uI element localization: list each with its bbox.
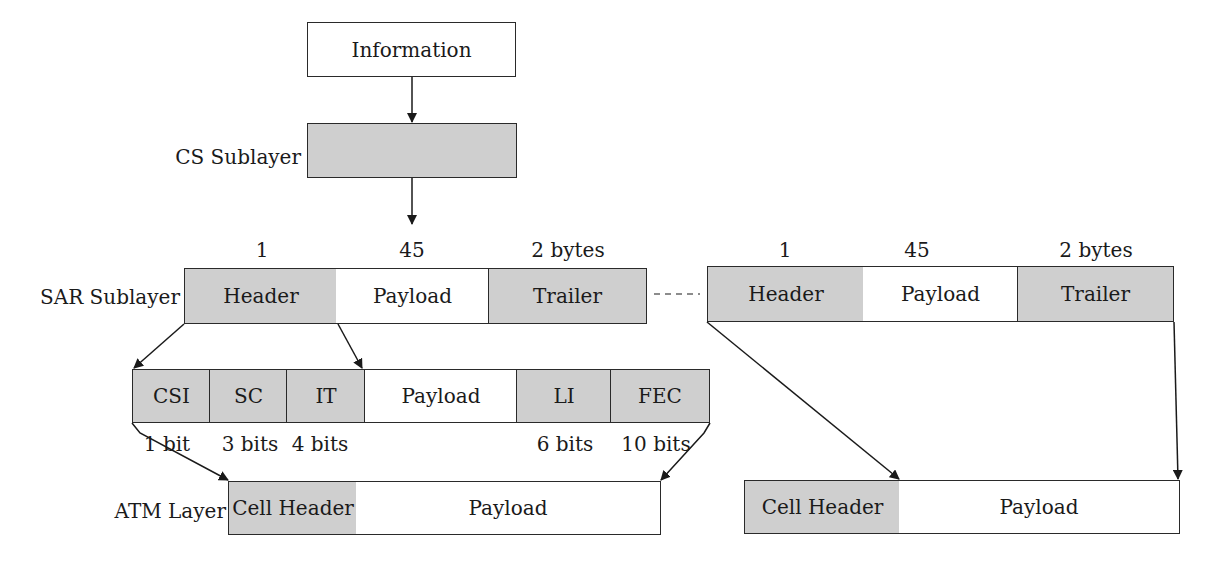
field-csi: CSI xyxy=(132,369,211,423)
cs-sublayer-box xyxy=(307,123,517,178)
sar-left-size-payload: 45 xyxy=(399,238,424,262)
atm-right-cell-header: Cell Header xyxy=(744,480,901,534)
field-li-label: LI xyxy=(553,384,574,408)
sar-right-header: Header xyxy=(707,266,865,322)
atm-left-payload-label: Payload xyxy=(469,496,548,520)
atm-right-cell-header-label: Cell Header xyxy=(762,495,884,519)
sar-right-payload-label: Payload xyxy=(901,282,980,306)
bits-it: 4 bits xyxy=(292,432,349,456)
sar-right-trailer-label: Trailer xyxy=(1061,282,1130,306)
sar-right-size-header: 1 xyxy=(779,238,792,262)
atm-right-payload-label: Payload xyxy=(1000,495,1079,519)
atm-left-payload: Payload xyxy=(356,481,661,535)
atm-left-cell-header: Cell Header xyxy=(228,481,358,535)
sar-left-trailer: Trailer xyxy=(488,268,647,324)
sar-left-size-header: 1 xyxy=(256,238,269,262)
sar-right-header-label: Header xyxy=(748,282,823,306)
field-li: LI xyxy=(516,369,612,423)
sar-right-trailer: Trailer xyxy=(1017,266,1174,322)
field-it-label: IT xyxy=(315,384,336,408)
atm-right-payload: Payload xyxy=(899,480,1180,534)
field-payload: Payload xyxy=(364,369,518,423)
bits-li: 6 bits xyxy=(537,432,594,456)
bits-sc: 3 bits xyxy=(222,432,279,456)
field-sc: SC xyxy=(209,369,288,423)
field-payload-label: Payload xyxy=(402,384,481,408)
information-label: Information xyxy=(351,38,471,62)
bits-fec: 10 bits xyxy=(621,432,690,456)
atm-layer-label: ATM Layer xyxy=(115,499,226,523)
information-box: Information xyxy=(307,22,516,77)
sar-left-header: Header xyxy=(184,268,338,324)
sar-right-size-payload: 45 xyxy=(904,238,929,262)
sar-left-payload: Payload xyxy=(336,268,490,324)
field-it: IT xyxy=(286,369,366,423)
sar-left-payload-label: Payload xyxy=(373,284,452,308)
sar-right-payload: Payload xyxy=(863,266,1019,322)
field-fec: FEC xyxy=(610,369,710,423)
field-fec-label: FEC xyxy=(638,384,682,408)
sar-right-size-trailer: 2 bytes xyxy=(1059,238,1132,262)
field-sc-label: SC xyxy=(234,384,263,408)
bits-csi: 1 bit xyxy=(144,432,190,456)
field-csi-label: CSI xyxy=(153,384,190,408)
sar-sublayer-label: SAR Sublayer xyxy=(40,285,180,309)
sar-left-size-trailer: 2 bytes xyxy=(531,238,604,262)
atm-left-cell-header-label: Cell Header xyxy=(232,496,354,520)
sar-left-header-label: Header xyxy=(223,284,298,308)
sar-left-trailer-label: Trailer xyxy=(533,284,602,308)
cs-sublayer-label: CS Sublayer xyxy=(175,145,301,169)
